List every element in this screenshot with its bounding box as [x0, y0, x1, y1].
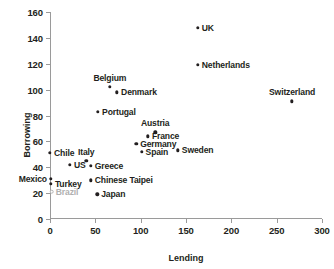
y-tick-mark: [46, 141, 50, 142]
data-point: [89, 164, 92, 167]
data-point-label: Portugal: [102, 107, 136, 116]
data-point-label: Austria: [141, 120, 170, 129]
x-tick-label: 50: [90, 225, 100, 236]
y-tick-label: 80: [33, 110, 43, 121]
plot-area: 020406080100120140160 050100150200250300…: [50, 12, 322, 219]
y-tick-label: 60: [33, 136, 43, 147]
x-tick-mark: [95, 219, 96, 223]
y-tick-label: 120: [27, 58, 43, 69]
y-tick-label: 0: [38, 214, 43, 225]
data-point-label: Greece: [95, 162, 123, 171]
data-point-label: Switzerland: [269, 89, 315, 98]
y-axis-title: Borrowing: [22, 112, 32, 157]
data-point-label: Mexico: [19, 175, 47, 184]
y-tick-label: 140: [27, 32, 43, 43]
x-tick-mark: [186, 219, 187, 223]
data-point: [140, 150, 143, 153]
x-tick-mark: [141, 219, 142, 223]
data-point: [146, 134, 149, 137]
y-tick-label: 40: [33, 162, 43, 173]
y-tick-mark: [46, 167, 50, 168]
data-point: [108, 85, 111, 88]
x-tick-label: 250: [269, 225, 285, 236]
x-tick-mark: [322, 219, 323, 223]
x-tick-mark: [50, 219, 51, 223]
data-point: [50, 190, 55, 195]
y-tick-label: 100: [27, 84, 43, 95]
data-point-label: Japan: [101, 190, 125, 199]
data-point-label: Belgium: [93, 74, 126, 83]
data-point-label: Brazil: [56, 188, 79, 197]
data-point: [115, 91, 118, 94]
scatter-chart: 020406080100120140160 050100150200250300…: [0, 0, 334, 269]
x-tick-label: 200: [224, 225, 240, 236]
y-tick-mark: [46, 64, 50, 65]
y-tick-label: 160: [27, 7, 43, 18]
x-tick-label: 300: [314, 225, 330, 236]
data-point-label: Denmark: [121, 88, 157, 97]
data-point-label: UK: [202, 23, 214, 32]
y-tick-mark: [46, 38, 50, 39]
x-tick-label: 150: [178, 225, 194, 236]
data-point: [89, 178, 92, 181]
y-tick-mark: [46, 116, 50, 117]
data-point-label: Chinese Taipei: [95, 176, 153, 185]
data-point-label: Chile: [54, 149, 74, 158]
data-point-label: Sweden: [182, 146, 214, 155]
y-tick-mark: [46, 90, 50, 91]
data-point: [68, 163, 71, 166]
x-tick-label: 100: [133, 225, 149, 236]
y-tick-label: 20: [33, 188, 43, 199]
data-point: [95, 193, 98, 196]
x-axis-title: Lending: [50, 253, 322, 263]
y-axis-line: [50, 12, 51, 219]
data-point: [196, 63, 199, 66]
data-point: [48, 151, 51, 154]
x-tick-mark: [277, 219, 278, 223]
data-point: [49, 182, 52, 185]
x-tick-label: 0: [47, 225, 52, 236]
data-point: [134, 142, 137, 145]
data-point: [196, 26, 199, 29]
data-point: [176, 149, 179, 152]
data-point: [96, 110, 99, 113]
data-point: [290, 100, 293, 103]
data-point: [49, 177, 52, 180]
data-point-label: Italy: [78, 148, 94, 157]
y-tick-mark: [46, 12, 50, 13]
data-point-label: US: [74, 160, 86, 169]
data-point-label: Netherlands: [202, 61, 250, 70]
x-tick-mark: [231, 219, 232, 223]
data-point-label: Spain: [146, 147, 169, 156]
